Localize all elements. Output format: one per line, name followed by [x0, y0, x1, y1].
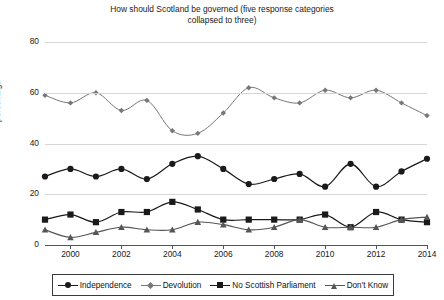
data-point-marker: [42, 173, 48, 179]
chart-container: How should Scotland be governed (five re…: [0, 0, 444, 300]
data-point-marker: [246, 85, 251, 90]
x-axis-tick-label: 2006: [203, 249, 243, 259]
x-axis-tick-label: 2000: [50, 249, 90, 259]
data-point-marker: [169, 161, 175, 167]
data-point-marker: [399, 100, 404, 105]
data-point-marker: [246, 181, 252, 187]
legend-item[interactable]: Don't Know: [325, 280, 389, 290]
y-axis-tick-label: 0: [13, 239, 39, 249]
data-point-marker: [169, 199, 175, 205]
x-axis-tick-label: 2014: [407, 249, 444, 259]
data-point-marker: [144, 98, 149, 103]
x-axis-tick-label: 2012: [356, 249, 396, 259]
data-point-marker: [297, 100, 302, 105]
y-gridline: [45, 144, 427, 145]
data-point-marker: [119, 108, 124, 113]
legend-square-icon: [210, 280, 230, 290]
data-point-marker: [246, 217, 252, 223]
data-point-marker: [373, 184, 379, 190]
legend-item-label: Don't Know: [347, 281, 389, 290]
x-axis-tick-label: 2010: [305, 249, 345, 259]
data-point-marker: [424, 156, 430, 162]
y-axis-tick-label: 20: [13, 188, 39, 198]
data-point-marker: [118, 209, 124, 215]
series-don-t-know: [42, 214, 431, 240]
y-gridline: [45, 42, 427, 43]
series-line: [45, 156, 427, 187]
data-point-marker: [93, 173, 99, 179]
data-point-marker: [144, 209, 150, 215]
y-gridline: [45, 93, 427, 94]
y-axis-tick-label: 60: [13, 87, 39, 97]
legend-item-label: No Scottish Parliament: [232, 281, 315, 290]
series-line: [45, 202, 427, 227]
x-axis-tick-label: 2008: [254, 249, 294, 259]
series-no-scottish-parliament: [42, 199, 430, 231]
x-axis-tick-label: 2004: [152, 249, 192, 259]
data-point-marker: [67, 211, 73, 217]
data-point-marker: [272, 95, 277, 100]
data-point-marker: [424, 219, 430, 225]
x-axis-tick-label: 2002: [101, 249, 141, 259]
data-point-marker: [348, 95, 353, 100]
data-point-marker: [42, 226, 49, 232]
data-point-marker: [67, 166, 73, 172]
data-point-marker: [42, 217, 48, 223]
series-line: [45, 87, 427, 135]
data-point-marker: [195, 153, 201, 159]
data-point-marker: [118, 166, 124, 172]
y-gridline: [45, 194, 427, 195]
data-point-marker: [322, 184, 328, 190]
legend-item[interactable]: Devolution: [141, 280, 202, 290]
data-point-marker: [348, 161, 354, 167]
data-point-marker: [144, 176, 150, 182]
data-point-marker: [322, 211, 328, 217]
legend-item-label: Devolution: [163, 281, 202, 290]
legend-diamond-icon: [141, 280, 161, 290]
data-point-marker: [424, 113, 429, 118]
y-axis-tick-label: 80: [13, 36, 39, 46]
data-point-marker: [195, 206, 201, 212]
y-axis-tick-label: 40: [13, 138, 39, 148]
data-point-marker: [271, 176, 277, 182]
chart-legend: IndependenceDevolutionNo Scottish Parlia…: [52, 274, 394, 296]
legend-item-label: Independence: [80, 281, 132, 290]
legend-circle-icon: [58, 280, 78, 290]
data-point-marker: [93, 219, 99, 225]
series-independence: [42, 153, 430, 190]
data-point-marker: [373, 209, 379, 215]
data-point-marker: [398, 168, 404, 174]
data-point-marker: [271, 217, 277, 223]
data-point-marker: [68, 100, 73, 105]
data-point-marker: [220, 166, 226, 172]
legend-triangle-icon: [325, 280, 345, 290]
data-point-marker: [297, 171, 303, 177]
legend-item[interactable]: No Scottish Parliament: [210, 280, 315, 290]
data-point-marker: [195, 131, 200, 136]
legend-item[interactable]: Independence: [58, 280, 132, 290]
